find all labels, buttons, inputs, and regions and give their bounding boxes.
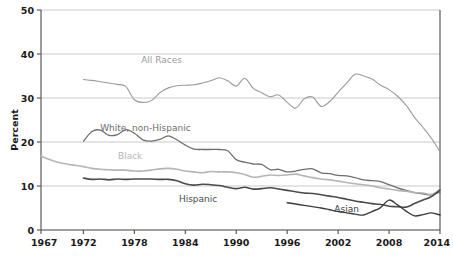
y-axis-title: Percent xyxy=(9,109,20,151)
y-tick-label-40: 40 xyxy=(21,49,35,60)
series-label-all-races: All Races xyxy=(141,55,182,65)
y-tick-label-10: 10 xyxy=(21,181,35,192)
x-tick-label-1990: 1990 xyxy=(223,237,250,248)
x-tick-label-1984: 1984 xyxy=(172,237,199,248)
x-tick-label-1967: 1967 xyxy=(31,237,57,248)
chart-page: 01020304050 1967197219781984199019962002… xyxy=(0,0,453,260)
y-tick-label-30: 30 xyxy=(21,93,35,104)
x-tick-label-1972: 1972 xyxy=(70,237,96,248)
y-tick-label-20: 20 xyxy=(21,137,35,148)
line-chart: 01020304050 1967197219781984199019962002… xyxy=(0,0,453,260)
x-tick-label-2002: 2002 xyxy=(325,237,351,248)
series-label-black: Black xyxy=(118,151,143,161)
x-tick-label-1978: 1978 xyxy=(121,237,148,248)
x-tick-label-2014: 2014 xyxy=(424,237,451,248)
x-tick-label-1996: 1996 xyxy=(274,237,301,248)
series-label-hispanic: Hispanic xyxy=(179,194,217,204)
y-tick-label-0: 0 xyxy=(27,225,34,236)
series-label-asian: Asian xyxy=(334,204,359,214)
series-label-white-non-hispanic: White, non-Hispanic xyxy=(100,123,190,133)
chart-background xyxy=(0,0,453,260)
x-tick-label-2008: 2008 xyxy=(376,237,403,248)
y-tick-label-50: 50 xyxy=(21,5,35,16)
